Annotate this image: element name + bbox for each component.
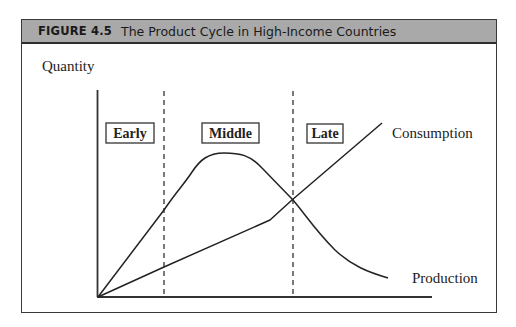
consumption-curve — [98, 123, 382, 297]
phase-label-middle: Middle — [202, 123, 259, 143]
production-curve — [98, 153, 388, 297]
svg-text:Early: Early — [113, 126, 146, 141]
svg-text:Middle: Middle — [209, 126, 252, 141]
svg-text:Late: Late — [311, 126, 338, 141]
product-cycle-chart: Quantity Early Middle Late Consumption P… — [0, 0, 516, 327]
production-label: Production — [412, 270, 478, 286]
phase-label-late: Late — [307, 124, 343, 143]
y-axis-label: Quantity — [42, 58, 95, 74]
consumption-label: Consumption — [392, 125, 473, 141]
phase-label-early: Early — [106, 123, 154, 143]
